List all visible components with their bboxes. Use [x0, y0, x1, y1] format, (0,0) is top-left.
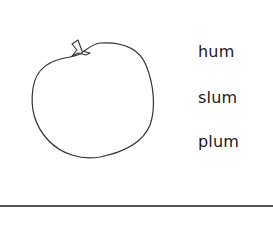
bottom-divider: [0, 205, 273, 207]
word-option: plum: [198, 134, 239, 150]
word-option: slum: [198, 90, 237, 106]
word-option: hum: [198, 44, 234, 60]
